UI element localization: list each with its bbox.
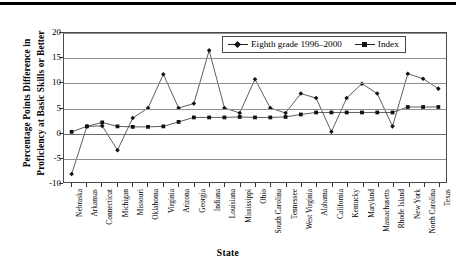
data-point [161,72,166,77]
legend-item-index: Index [355,39,399,50]
data-point [314,111,318,115]
x-tick-mark [209,183,210,187]
y-axis-ticks: 20151050-5-10 [38,32,61,183]
x-tick-label-oklahoma: Oklahoma [151,189,161,249]
gridline--5 [64,159,446,160]
x-tick-label-new-york: New York [413,189,423,249]
series-line-index [72,107,439,132]
data-point [100,121,104,125]
data-point [130,116,135,121]
x-tick-mark [255,183,256,187]
data-point [207,48,212,53]
x-tick-label-alabama: Alabama [320,189,330,249]
x-tick-mark [301,183,302,187]
x-tick-label-missouri: Missouri [136,189,146,249]
chart-legend: Eighth grade 1996–2000 Index [222,36,406,53]
x-tick-mark [86,183,87,187]
y-tick-label-15: 15 [41,53,61,62]
data-point [360,111,364,115]
x-axis-tick-labels: NebraskaArkansasConnecticutMichiganMisso… [63,189,447,241]
x-tick-mark [147,183,148,187]
x-tick-label-rhode-island: Rhode Island [397,189,407,249]
gridline-10 [64,83,446,84]
data-point [69,172,74,177]
x-tick-mark [270,183,271,187]
x-tick-mark [132,183,133,187]
x-tick-label-georgia: Georgia [198,189,208,249]
diamond-marker-icon [228,40,248,49]
x-tick-mark [194,183,195,187]
data-point [238,115,242,119]
x-tick-label-tennessee: Tennessee [290,189,300,249]
data-point [100,124,105,129]
x-tick-mark [316,183,317,187]
data-point [131,125,135,129]
legend-label-index: Index [378,39,399,50]
x-tick-label-indiana: Indiana [213,189,223,249]
x-tick-label-arizona: Arizona [182,189,192,249]
x-tick-mark [424,183,425,187]
gridline-15 [64,58,446,59]
data-point [390,124,395,129]
data-point [268,116,272,120]
x-tick-mark [347,183,348,187]
data-point [146,125,150,129]
plot-area [63,32,447,183]
data-point [314,96,319,101]
gridline-5 [64,109,446,110]
x-tick-mark [178,183,179,187]
x-tick-mark [117,183,118,187]
data-point [284,115,288,119]
x-tick-mark [393,183,394,187]
data-point [253,77,258,82]
x-tick-mark [240,183,241,187]
x-tick-label-ohio: Ohio [259,189,269,249]
x-tick-label-california: California [336,189,346,249]
x-tick-mark [378,183,379,187]
y-axis-title-line-1: Percentage Points Difference in [20,18,34,188]
data-point [345,111,349,115]
x-tick-label-louisiana: Louisiana [228,189,238,249]
data-point [192,101,197,106]
x-tick-mark [71,183,72,187]
data-point [237,111,242,116]
x-tick-mark [332,183,333,187]
legend-item-eighth-grade: Eighth grade 1996–2000 [228,39,342,50]
x-tick-label-mississippi: Mississippi [244,189,254,249]
gridline-0 [64,134,446,135]
data-point [330,111,334,115]
x-tick-label-kentucky: Kentucky [351,189,361,249]
data-point [116,124,120,128]
x-tick-mark [224,183,225,187]
y-tick-label-20: 20 [41,28,61,37]
data-point [115,148,120,153]
data-point [253,116,257,120]
gridline-20 [64,33,446,34]
x-tick-mark [363,183,364,187]
data-point [85,124,89,128]
x-tick-label-north-carolina: North Carolina [428,189,438,249]
x-tick-label-west-virginia: West Virginia [305,189,315,249]
x-tick-label-nebraska: Nebraska [75,189,85,249]
y-tick-label-0: 0 [41,128,61,137]
y-tick-label--5: -5 [41,153,61,162]
data-point [375,91,380,96]
x-axis-title: State [0,247,456,258]
x-tick-label-virginia: Virginia [167,189,177,249]
data-point [436,86,441,91]
x-tick-label-south-carolina: South Carolina [274,189,284,249]
x-tick-mark [439,183,440,187]
x-tick-mark [286,183,287,187]
x-tick-label-massachusetts: Massachusetts [382,189,392,249]
data-point [406,71,411,76]
y-tick-label-5: 5 [41,103,61,112]
data-point [375,111,379,115]
x-tick-mark [101,183,102,187]
data-point [391,111,395,115]
data-point [177,120,181,124]
data-point [299,113,303,117]
x-tick-label-michigan: Michigan [121,189,131,249]
square-marker-icon [355,40,375,49]
chart-figure: Percentage Points Difference in Proficie… [0,0,456,264]
data-point [207,116,211,120]
